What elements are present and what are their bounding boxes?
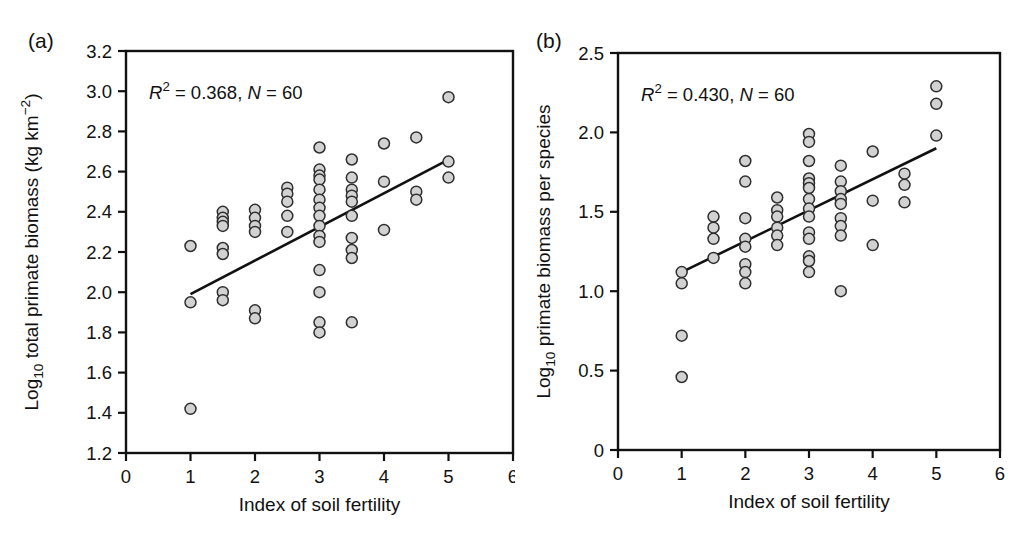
data-point <box>708 233 719 244</box>
data-point <box>250 226 261 237</box>
label-part: Log <box>533 367 554 399</box>
y-tick-label: 2.2 <box>86 242 112 263</box>
data-point <box>250 313 261 324</box>
label-part: 2 <box>162 79 169 94</box>
data-point <box>217 295 228 306</box>
data-point <box>835 198 846 209</box>
panel-label: (a) <box>28 29 54 52</box>
data-point <box>314 142 325 153</box>
y-axis-title: Log10 primate biomass per species <box>533 104 558 398</box>
data-point <box>740 176 751 187</box>
stats-annotation: R2 = 0.430, N = 60 <box>641 81 795 105</box>
data-point <box>867 240 878 251</box>
data-point <box>740 241 751 252</box>
label-part: ) <box>21 93 42 99</box>
chart-a-total-primate-biomass: (a)01234561.21.41.61.82.02.22.42.62.83.0… <box>0 0 515 547</box>
label-part: = 60 <box>753 84 795 105</box>
data-point <box>346 232 357 243</box>
y-tick-label: 2.4 <box>86 201 112 222</box>
x-tick-label: 2 <box>740 463 750 484</box>
data-point <box>772 211 783 222</box>
y-tick-label: 1.8 <box>86 322 112 343</box>
data-point <box>314 327 325 338</box>
data-point <box>379 176 390 187</box>
data-point <box>314 236 325 247</box>
data-point <box>835 230 846 241</box>
y-tick-label: 1.2 <box>86 443 112 464</box>
x-tick-label: 3 <box>804 463 814 484</box>
data-point <box>867 195 878 206</box>
data-point <box>411 132 422 143</box>
data-point <box>346 172 357 183</box>
data-point <box>676 278 687 289</box>
y-tick-label: 0.5 <box>578 360 604 381</box>
data-point <box>899 168 910 179</box>
x-tick-label: 4 <box>379 466 389 487</box>
data-point <box>899 197 910 208</box>
data-point <box>217 220 228 231</box>
label-part: total primate biomass (kg km <box>21 115 42 363</box>
data-point <box>346 317 357 328</box>
y-tick-label: 2.5 <box>578 43 604 64</box>
x-tick-label: 0 <box>121 466 131 487</box>
chart-b-primate-biomass-per-species: (b)012345600.51.01.52.02.5Index of soil … <box>515 0 1031 547</box>
label-part: N <box>247 82 261 103</box>
data-point <box>379 138 390 149</box>
x-tick-label: 1 <box>185 466 195 487</box>
data-point <box>804 156 815 167</box>
label-part: 10 <box>31 363 46 379</box>
y-tick-label: 2.0 <box>578 122 604 143</box>
data-point <box>443 172 454 183</box>
label-part: N <box>739 84 753 105</box>
data-point <box>185 297 196 308</box>
label-part: = 60 <box>261 82 303 103</box>
data-point <box>314 265 325 276</box>
data-point <box>185 403 196 414</box>
data-point <box>708 211 719 222</box>
data-point <box>804 233 815 244</box>
data-point <box>804 267 815 278</box>
x-axis-title: Index of soil fertility <box>239 494 401 515</box>
y-tick-label: 3.0 <box>86 81 112 102</box>
x-tick-label: 3 <box>314 466 324 487</box>
plot-frame <box>126 51 513 453</box>
data-point <box>346 253 357 264</box>
data-point <box>676 267 687 278</box>
data-point <box>708 252 719 263</box>
y-tick-label: 2.6 <box>86 161 112 182</box>
data-point <box>835 286 846 297</box>
data-point <box>282 226 293 237</box>
x-tick-label: 0 <box>613 463 623 484</box>
label-part: = 0.430, <box>662 84 740 105</box>
y-tick-label: 2.0 <box>86 282 112 303</box>
y-tick-label: 1.4 <box>86 402 112 423</box>
data-point <box>740 278 751 289</box>
label-part: R <box>149 82 162 103</box>
y-tick-label: 2.8 <box>86 121 112 142</box>
data-point <box>185 241 196 252</box>
data-point <box>411 194 422 205</box>
data-point <box>314 287 325 298</box>
data-point <box>676 372 687 383</box>
stats-annotation: R2 = 0.368, N = 60 <box>149 79 303 103</box>
data-point <box>346 210 357 221</box>
data-point <box>931 130 942 141</box>
x-tick-label: 2 <box>250 466 260 487</box>
data-point <box>217 249 228 260</box>
panel-label: (b) <box>536 29 562 52</box>
label-part: 10 <box>543 351 558 367</box>
data-point <box>740 213 751 224</box>
data-point <box>282 196 293 207</box>
data-point <box>804 136 815 147</box>
x-axis-title: Index of soil fertility <box>728 491 890 512</box>
label-part: primate biomass per species <box>533 104 554 351</box>
y-tick-label: 1.6 <box>86 362 112 383</box>
data-point <box>379 224 390 235</box>
data-point <box>899 179 910 190</box>
x-tick-label: 4 <box>868 463 878 484</box>
data-point <box>676 330 687 341</box>
data-point <box>867 146 878 157</box>
data-point <box>804 211 815 222</box>
data-point <box>708 222 719 233</box>
data-point <box>931 98 942 109</box>
